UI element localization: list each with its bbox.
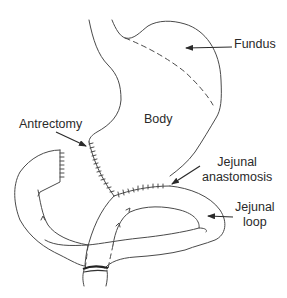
label-fundus: Fundus (234, 37, 276, 52)
jejunal-loop-inner-bottom (45, 228, 199, 245)
lesser-curvature (89, 20, 121, 142)
loop-end-right (106, 270, 107, 286)
jejunal-loop-arrow (208, 216, 233, 217)
label-body: Body (144, 112, 173, 127)
antrectomy-arrow (56, 132, 86, 146)
fundus-arrow (186, 47, 232, 48)
label-jejunal-loop-line2: loop (235, 215, 275, 230)
crossing-limb-dashed-right (108, 245, 113, 270)
stomach-diagram: Fundus Body Antrectomy Jejunal anastomos… (0, 0, 287, 298)
afferent-limb-inner (38, 190, 88, 245)
label-jejunal-anastomosis-line2: anastomosis (202, 170, 272, 185)
anastomosis-arrow (172, 166, 200, 184)
jejunal-loop-outer-right (105, 186, 225, 268)
anastomosis-staples (118, 184, 163, 197)
loop-end-left (83, 270, 84, 286)
greater-curvature (112, 20, 221, 176)
afferent-limb-stump (38, 150, 60, 196)
ligature-2 (84, 270, 107, 272)
afferent-limb-outer (15, 150, 85, 266)
antrectomy-staple-line (89, 142, 114, 196)
stump-staples (60, 153, 64, 177)
jejunal-anastomosis-line (114, 186, 170, 196)
antrectomy-staples (89, 143, 114, 192)
label-jejunal-anastomosis-line1: Jejunal (202, 155, 272, 170)
label-antrectomy: Antrectomy (19, 117, 82, 132)
label-jejunal-anastomosis: Jejunal anastomosis (202, 155, 272, 185)
ligature (83, 267, 108, 269)
label-jejunal-loop-line1: Jejunal (235, 200, 275, 215)
jejunal-loop-outer (85, 196, 114, 266)
label-jejunal-loop: Jejunal loop (235, 200, 275, 230)
flow-mark-3 (126, 208, 130, 212)
